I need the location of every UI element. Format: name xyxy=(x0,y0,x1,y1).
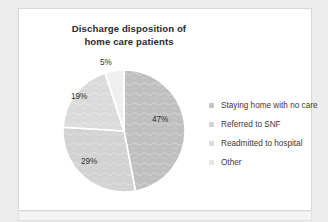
legend-swatch-icon xyxy=(209,103,214,108)
legend-item-label: Readmitted to hospital xyxy=(221,139,302,149)
legend-item-label: Referred to SNF xyxy=(221,120,281,130)
chart-title: Discharge disposition of home care patie… xyxy=(49,23,209,48)
pie-texture-overlay xyxy=(63,70,185,192)
slice-value-label-4: 5% xyxy=(100,58,112,67)
chart-title-line-2: home care patients xyxy=(49,36,209,49)
slice-value-label-1: 47% xyxy=(152,115,168,124)
slice-value-label-2: 29% xyxy=(81,157,97,166)
chart-title-line-1: Discharge disposition of xyxy=(49,23,209,36)
legend-swatch-icon xyxy=(209,122,214,127)
card-footer-strip xyxy=(18,212,312,221)
chart-legend: Staying home with no care Referred to SN… xyxy=(209,97,327,173)
legend-item-staying-home-with-no-care[interactable]: Staying home with no care xyxy=(209,97,327,114)
legend-item-referred-to-snf[interactable]: Referred to SNF xyxy=(209,116,327,133)
legend-item-label: Staying home with no care xyxy=(221,101,317,111)
legend-item-readmitted-to-hospital[interactable]: Readmitted to hospital xyxy=(209,135,327,152)
legend-swatch-icon xyxy=(209,160,214,165)
legend-item-other[interactable]: Other xyxy=(209,154,327,171)
chart-card: Discharge disposition of home care patie… xyxy=(18,8,312,211)
legend-swatch-icon xyxy=(209,141,214,146)
pie-chart: 47% 29% 19% 5% xyxy=(62,69,186,193)
screenshot-canvas: Discharge disposition of home care patie… xyxy=(0,0,328,222)
pie-chart-svg xyxy=(62,69,186,193)
legend-item-label: Other xyxy=(221,158,241,168)
slice-value-label-3: 19% xyxy=(71,92,87,101)
